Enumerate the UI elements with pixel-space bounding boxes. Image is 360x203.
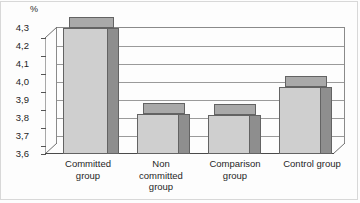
bar-front-face	[279, 87, 321, 154]
x-axis-label-line: group	[192, 170, 278, 182]
y-axis-tick-mark	[41, 56, 46, 57]
y-axis-tick-mark	[41, 110, 46, 111]
y-axis-tick-mark	[41, 74, 46, 75]
y-axis-tick-mark	[41, 128, 46, 129]
x-axis-label-line: Non	[120, 158, 202, 170]
x-axis-label-line: group	[120, 181, 202, 193]
y-axis-tick-label: 4,1	[7, 58, 29, 69]
x-axis-label-line: Committed	[47, 158, 129, 170]
y-axis-tick-label: 3,8	[7, 112, 29, 123]
y-axis-tick-mark	[41, 146, 46, 147]
bar-front-face	[137, 114, 179, 154]
axis-depth-edge-left	[45, 27, 57, 154]
y-axis-tick-label: 4,2	[7, 40, 29, 51]
x-axis-category-labels: Committed group Non committed group Comp…	[45, 158, 345, 203]
bar-top-face	[285, 76, 327, 87]
x-axis-label-line: group	[47, 170, 129, 182]
bar-front-face	[63, 28, 108, 154]
bar-top-face	[214, 104, 256, 115]
bar-top-face	[69, 17, 114, 28]
y-axis-tick-label: 4,0	[7, 76, 29, 87]
y-axis-unit-label: %	[30, 4, 38, 14]
x-axis-label-line: Control group	[269, 158, 355, 170]
y-axis-tick-label: 4,3	[7, 22, 29, 33]
y-axis-tick-label: 3,7	[7, 130, 29, 141]
bar-committed-group	[63, 17, 108, 154]
bar-side-face	[179, 114, 190, 154]
bar-non-committed-group	[137, 103, 179, 154]
x-axis-label-committed-group: Committed group	[47, 158, 129, 181]
bar-control-group	[279, 76, 321, 154]
bar-front-face	[208, 115, 250, 154]
bar-side-face	[108, 28, 119, 154]
x-axis-label-control-group: Control group	[269, 158, 355, 170]
bar-side-face	[250, 115, 261, 154]
y-axis-tick-labels: 4,3 4,2 4,1 4,0 3,9 3,8 3,7 3,6	[3, 0, 29, 203]
y-axis-tick-mark	[41, 92, 46, 93]
y-axis-tick-label: 3,9	[7, 94, 29, 105]
x-axis-label-line: committed	[120, 170, 202, 182]
bar-side-face	[321, 87, 332, 154]
x-axis-label-non-committed-group: Non committed group	[120, 158, 202, 193]
bar-top-face	[143, 103, 185, 114]
y-axis-tick-label: 3,6	[7, 148, 29, 159]
x-axis-label-line: Comparison	[192, 158, 278, 170]
plot-area	[45, 27, 345, 154]
y-axis-tick-mark	[41, 38, 46, 39]
bar-comparison-group	[208, 104, 250, 154]
y-axis-tick-mark	[41, 154, 46, 155]
axis-depth-edge-right	[333, 142, 345, 154]
x-axis-label-comparison-group: Comparison group	[192, 158, 278, 181]
bar-chart-figure: % 4,3 4,2 4,1 4,0 3,9 3,8 3,7 3,6	[0, 0, 360, 203]
